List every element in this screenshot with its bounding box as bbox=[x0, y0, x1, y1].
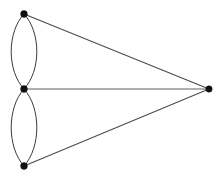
graph-canvas bbox=[0, 0, 221, 179]
edge-middle-bottom-right-arc bbox=[24, 89, 37, 166]
multigraph-figure bbox=[0, 0, 221, 179]
edge-top-middle-left-arc bbox=[11, 14, 24, 89]
edge-top-middle-right-arc bbox=[24, 14, 37, 89]
edge-top-right-line bbox=[24, 14, 209, 89]
edge-middle-bottom-left-arc bbox=[11, 89, 24, 166]
vertex-bottom bbox=[21, 163, 28, 170]
edge-bottom-right-line bbox=[24, 89, 209, 166]
vertex-middle bbox=[21, 86, 28, 93]
vertex-top bbox=[21, 11, 28, 18]
vertex-right bbox=[206, 86, 212, 92]
